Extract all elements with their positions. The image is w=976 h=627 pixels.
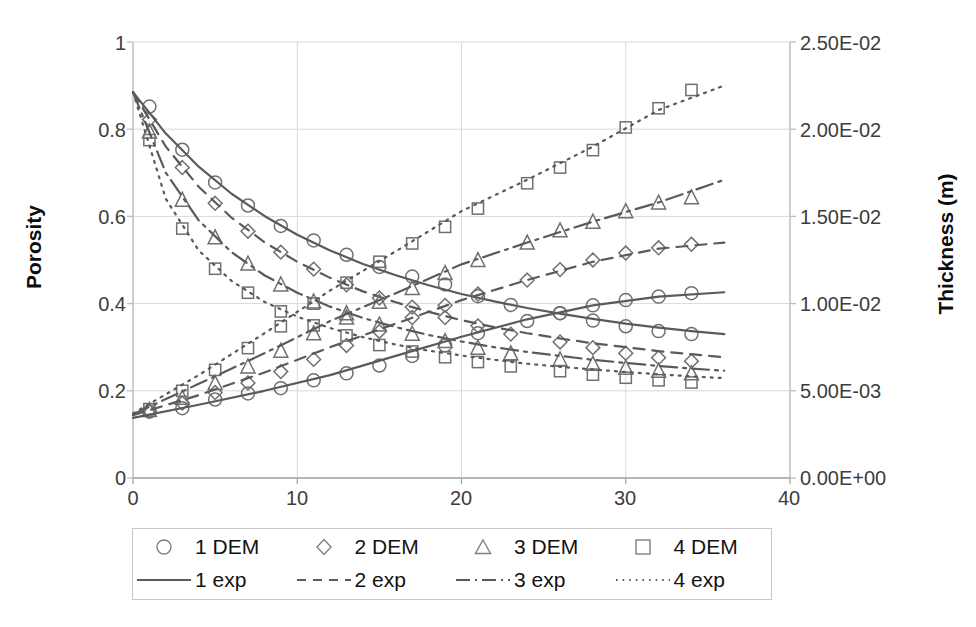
series-3-dem-right [142, 190, 698, 417]
series-4-dem-left [144, 135, 697, 389]
left-tick-0.2: 0.2 [64, 380, 126, 403]
right-tick-1.00E-02: 1.00E-02 [800, 293, 881, 316]
legend-entry-3-exp[interactable]: 3 exp [452, 568, 612, 592]
x-tick-30: 30 [604, 487, 646, 510]
legend-label-1-exp: 1 exp [195, 568, 246, 592]
series-2-dem-right [143, 237, 699, 417]
left-tick-0.4: 0.4 [64, 293, 126, 316]
legend-label-1-dem: 1 DEM [195, 535, 259, 559]
triangle-marker-icon [452, 536, 514, 558]
series-1-exp-right [133, 292, 724, 418]
left-tick-0.6: 0.6 [64, 206, 126, 229]
x-tick-0: 0 [112, 487, 154, 510]
right-tick-5.00E-03: 5.00E-03 [800, 380, 881, 403]
legend-label-2-dem: 2 DEM [355, 535, 419, 559]
series-4-exp-right [133, 86, 724, 414]
series-layer [133, 84, 724, 418]
legend-row-markers: 1 DEM 2 DEM 3 DEM 4 DEM [133, 529, 771, 565]
legend-entry-4-dem[interactable]: 4 DEM [612, 535, 772, 559]
series-3-dem-left [142, 124, 698, 380]
series-4-exp-left [133, 92, 724, 378]
left-tick-0.8: 0.8 [64, 119, 126, 142]
legend-label-3-exp: 3 exp [514, 568, 565, 592]
right-tick-2.00E-02: 2.00E-02 [800, 119, 881, 142]
legend-entry-1-dem[interactable]: 1 DEM [133, 535, 293, 559]
series-3-exp-left [133, 92, 724, 371]
dashed-line-icon [293, 573, 355, 587]
solid-line-icon [133, 573, 195, 587]
legend-label-2-exp: 2 exp [355, 568, 406, 592]
legend-label-4-dem: 4 DEM [674, 535, 738, 559]
right-axis-title: Thickness (m) [934, 154, 958, 334]
series-1-dem-left [143, 100, 698, 341]
legend-row-lines: 1 exp 2 exp 3 exp 4 exp [133, 562, 771, 598]
series-2-dem-left [143, 113, 699, 368]
series-3-exp-right [133, 180, 724, 415]
legend-label-4-exp: 4 exp [674, 568, 725, 592]
legend-entry-2-exp[interactable]: 2 exp [293, 568, 453, 592]
left-axis-title: Porosity [22, 187, 46, 307]
series-4-dem-right [144, 84, 697, 414]
series-2-exp-right [133, 243, 724, 416]
circle-marker-icon [133, 536, 195, 558]
series-2-exp-left [133, 92, 724, 357]
series-1-dem-right [143, 287, 698, 419]
right-tick-1.50E-02: 1.50E-02 [800, 206, 881, 229]
legend-entry-2-dem[interactable]: 2 DEM [293, 535, 453, 559]
chart-container: Porosity Thickness (m) 1 0.8 0.6 0.4 0.2… [0, 0, 976, 627]
dashdot-line-icon [452, 573, 514, 587]
x-tick-10: 10 [276, 487, 318, 510]
right-tick-0.00E+00: 0.00E+00 [800, 467, 886, 490]
legend-entry-3-dem[interactable]: 3 DEM [452, 535, 612, 559]
legend-label-3-dem: 3 DEM [514, 535, 578, 559]
x-tick-40: 40 [768, 487, 810, 510]
gridlines [133, 42, 790, 478]
axis-lines [127, 42, 796, 484]
chart-legend: 1 DEM 2 DEM 3 DEM 4 DEM [132, 528, 772, 600]
diamond-marker-icon [293, 536, 355, 558]
legend-entry-1-exp[interactable]: 1 exp [133, 568, 293, 592]
legend-entry-4-exp[interactable]: 4 exp [612, 568, 772, 592]
left-tick-1: 1 [80, 32, 126, 55]
square-marker-icon [612, 536, 674, 558]
right-tick-2.50E-02: 2.50E-02 [800, 32, 881, 55]
x-tick-20: 20 [440, 487, 482, 510]
series-1-exp-left [133, 92, 724, 334]
dotted-line-icon [612, 573, 674, 587]
